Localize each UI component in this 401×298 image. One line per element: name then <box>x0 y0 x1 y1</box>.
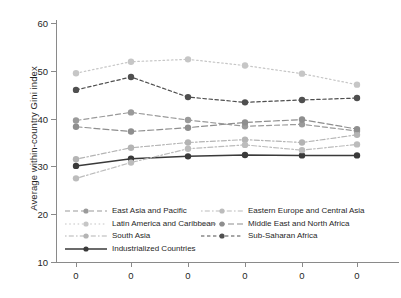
data-point <box>354 141 360 147</box>
data-point <box>73 156 79 162</box>
y-axis-tick-label: 10 <box>37 257 48 268</box>
legend-swatch <box>64 205 108 217</box>
x-axis-tick-label: 0 <box>299 270 304 281</box>
chart-figure: Average within-country Gini index 102030… <box>0 0 401 298</box>
legend-swatch <box>64 243 108 255</box>
data-point <box>185 139 191 145</box>
legend-label: Eastern Europe and Central Asia <box>248 207 365 215</box>
legend-label: Middle East and North Africa <box>248 220 349 228</box>
data-point <box>185 56 191 62</box>
data-point <box>354 132 360 138</box>
legend-label: Sub-Saharan Africa <box>248 232 317 240</box>
data-point <box>242 99 248 105</box>
series-middle-east-and-north-africa <box>73 116 360 134</box>
legend-label: East Asia and Pacific <box>112 207 187 215</box>
legend-item[interactable]: Industrialized Countries <box>64 243 229 256</box>
data-point <box>299 139 305 145</box>
data-point <box>299 116 305 122</box>
data-point <box>242 119 248 125</box>
data-point <box>299 147 305 153</box>
legend-label: Industrialized Countries <box>112 245 196 253</box>
legend-swatch <box>200 230 244 242</box>
x-axis-tick-label: 0 <box>73 270 78 281</box>
series-line <box>76 77 357 102</box>
data-point <box>128 109 134 115</box>
data-point <box>185 94 191 100</box>
legend-item[interactable]: Sub-Saharan Africa <box>200 230 400 243</box>
legend-column-right: Eastern Europe and Central AsiaMiddle Ea… <box>200 205 400 243</box>
data-point <box>242 142 248 148</box>
y-axis-tick-label: 50 <box>37 65 48 76</box>
data-point <box>354 126 360 132</box>
data-point <box>299 97 305 103</box>
data-point <box>299 70 305 76</box>
data-point <box>73 175 79 181</box>
series-line <box>76 144 357 178</box>
y-axis-tick-label: 30 <box>37 161 48 172</box>
data-point <box>185 153 191 159</box>
x-axis-tick-label: 0 <box>128 270 133 281</box>
series-latin-america-and-caribbean <box>73 56 360 88</box>
data-point <box>73 70 79 76</box>
data-point <box>185 117 191 123</box>
series-line <box>76 155 357 166</box>
x-axis-tick-label: 0 <box>354 270 359 281</box>
y-axis-tick-label: 20 <box>37 209 48 220</box>
data-point <box>242 152 248 158</box>
series-line <box>76 59 357 84</box>
data-point <box>128 145 134 151</box>
data-point <box>242 62 248 68</box>
series-sub-saharan-africa <box>73 74 360 106</box>
data-point <box>354 95 360 101</box>
data-point <box>185 146 191 152</box>
data-point <box>73 87 79 93</box>
data-point <box>73 117 79 123</box>
y-axis-tick-label: 40 <box>37 113 48 124</box>
data-point <box>128 74 134 80</box>
legend-swatch <box>200 218 244 230</box>
legend-item[interactable]: Eastern Europe and Central Asia <box>200 205 400 218</box>
data-point <box>128 128 134 134</box>
x-axis-tick-label: 0 <box>185 270 190 281</box>
data-point <box>73 163 79 169</box>
x-axis-tick-label: 0 <box>242 270 247 281</box>
y-axis-tick-label: 60 <box>37 18 48 29</box>
data-point <box>128 59 134 65</box>
legend-swatch <box>200 205 244 217</box>
data-point <box>354 152 360 158</box>
data-point <box>354 81 360 87</box>
legend-item[interactable]: Middle East and North Africa <box>200 218 400 231</box>
legend-swatch <box>64 230 108 242</box>
data-point <box>128 159 134 165</box>
legend-label: South Asia <box>112 232 150 240</box>
data-point <box>185 124 191 130</box>
data-point <box>73 124 79 130</box>
legend-swatch <box>64 218 108 230</box>
